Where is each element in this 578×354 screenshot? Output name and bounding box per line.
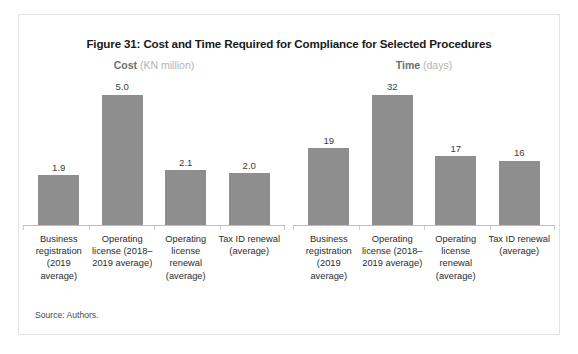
bar-value-label: 32 bbox=[387, 82, 398, 92]
category-label: Tax ID renewal (average) bbox=[488, 233, 552, 282]
bar-rect[interactable] bbox=[499, 161, 540, 225]
bar-slot: 2.0 bbox=[218, 79, 282, 225]
bar-slot: 17 bbox=[424, 79, 488, 225]
bar-rect[interactable] bbox=[165, 170, 206, 225]
category-label: Business registration (2019 average) bbox=[27, 233, 91, 282]
category-label: Tax ID renewal (average) bbox=[218, 233, 282, 282]
panel-cost: Cost (KN million) 1.9 5.0 2.1 bbox=[19, 59, 289, 321]
bar-slot: 5.0 bbox=[91, 79, 155, 225]
bar-slot: 2.1 bbox=[154, 79, 218, 225]
bar-group-cost: 1.9 5.0 2.1 2.0 bbox=[27, 79, 281, 225]
panel-cost-unit: (KN million) bbox=[140, 59, 194, 71]
bar-rect[interactable] bbox=[372, 95, 413, 225]
category-label: Operating license (2018–2019 average) bbox=[91, 233, 155, 282]
bar-rect[interactable] bbox=[229, 173, 270, 225]
bar-slot: 1.9 bbox=[27, 79, 91, 225]
bar-value-label: 19 bbox=[323, 136, 334, 146]
category-label: Operating license renewal (average) bbox=[424, 233, 488, 282]
panel-time-unit: (days) bbox=[423, 59, 452, 71]
bar-rect[interactable] bbox=[308, 148, 349, 225]
panel-time-metric: Time bbox=[396, 59, 420, 71]
bar-slot: 16 bbox=[488, 79, 552, 225]
panel-cost-metric: Cost bbox=[114, 59, 137, 71]
plot-area-cost: 1.9 5.0 2.1 2.0 bbox=[27, 79, 281, 225]
category-label: Business registration (2019 average) bbox=[297, 233, 361, 282]
bar-value-label: 2.0 bbox=[243, 161, 256, 171]
bar-slot: 19 bbox=[297, 79, 361, 225]
panel-time-subtitle: Time (days) bbox=[289, 59, 559, 71]
x-axis-ticks bbox=[23, 226, 285, 230]
source-note: Source: Authors. bbox=[35, 310, 99, 320]
bar-rect[interactable] bbox=[38, 175, 79, 225]
bar-value-label: 5.0 bbox=[116, 82, 129, 92]
bar-value-label: 2.1 bbox=[179, 158, 192, 168]
bar-value-label: 1.9 bbox=[52, 163, 65, 173]
bar-rect[interactable] bbox=[435, 156, 476, 225]
x-axis-category-labels: Business registration (2019 average) Ope… bbox=[297, 233, 551, 282]
x-axis-category-labels: Business registration (2019 average) Ope… bbox=[27, 233, 281, 282]
bar-value-label: 16 bbox=[514, 148, 525, 158]
category-label: Operating license (2018–2019 average) bbox=[361, 233, 425, 282]
bar-group-time: 19 32 17 16 bbox=[297, 79, 551, 225]
bar-rect[interactable] bbox=[102, 95, 143, 225]
chart-panels: Cost (KN million) 1.9 5.0 2.1 bbox=[19, 59, 559, 321]
figure-container: Figure 31: Cost and Time Required for Co… bbox=[18, 14, 560, 335]
panel-time: Time (days) 19 32 17 bbox=[289, 59, 559, 321]
bar-slot: 32 bbox=[361, 79, 425, 225]
x-axis-ticks bbox=[293, 226, 555, 230]
category-label: Operating license renewal (average) bbox=[154, 233, 218, 282]
figure-title: Figure 31: Cost and Time Required for Co… bbox=[19, 37, 559, 50]
bar-value-label: 17 bbox=[450, 144, 461, 154]
plot-area-time: 19 32 17 16 bbox=[297, 79, 551, 225]
panel-cost-subtitle: Cost (KN million) bbox=[19, 59, 289, 71]
